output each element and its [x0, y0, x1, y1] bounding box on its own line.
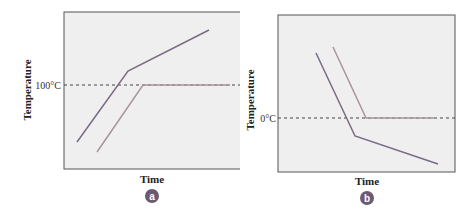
y-axis-label: Temperature [21, 59, 33, 120]
x-axis-label: Time [355, 175, 379, 187]
heating-curve-diagram: 100°C Temperature Time a [0, 0, 240, 216]
plot-frame [278, 15, 455, 172]
plot-frame [64, 12, 240, 169]
y-axis-label: Temperature [244, 69, 256, 130]
reference-label: 100°C [35, 80, 61, 91]
panel-b: 0°C Temperature Time b [236, 0, 476, 216]
panel-a: 100°C Temperature Time a [0, 0, 240, 216]
x-axis-label: Time [140, 173, 164, 185]
reference-label: 0°C [260, 113, 276, 124]
panel-badge-label: b [364, 193, 370, 204]
panel-badge-label: a [149, 191, 155, 202]
cooling-curve-diagram: 0°C Temperature Time b [236, 0, 476, 216]
